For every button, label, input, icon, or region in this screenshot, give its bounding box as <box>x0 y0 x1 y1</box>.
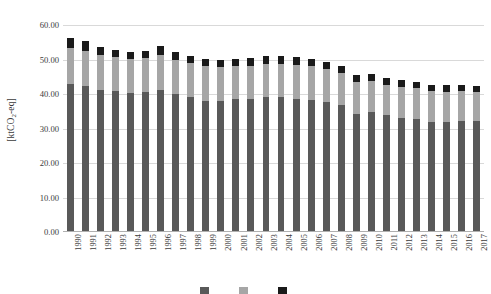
bar-segment-segment-top[interactable] <box>157 46 164 55</box>
bar-segment-segment-bottom[interactable] <box>398 118 405 232</box>
bar-segment-segment-middle[interactable] <box>217 67 224 101</box>
bar-segment-segment-middle[interactable] <box>293 65 300 98</box>
bar-segment-segment-bottom[interactable] <box>67 84 74 232</box>
bar-group[interactable] <box>82 41 89 232</box>
bar-group[interactable] <box>142 51 149 232</box>
bar-segment-segment-middle[interactable] <box>308 66 315 99</box>
bar-segment-segment-middle[interactable] <box>232 66 239 99</box>
bar-segment-segment-middle[interactable] <box>142 58 149 91</box>
bar-segment-segment-bottom[interactable] <box>428 122 435 232</box>
bar-segment-segment-bottom[interactable] <box>383 115 390 232</box>
bar-segment-segment-middle[interactable] <box>473 92 480 121</box>
bar-segment-segment-top[interactable] <box>308 59 315 67</box>
bar-group[interactable] <box>172 52 179 232</box>
bar-segment-segment-bottom[interactable] <box>323 102 330 232</box>
bar-group[interactable] <box>353 75 360 232</box>
bar-group[interactable] <box>428 85 435 232</box>
bar-segment-segment-bottom[interactable] <box>232 99 239 232</box>
bar-segment-segment-top[interactable] <box>278 56 285 64</box>
bar-group[interactable] <box>112 50 119 232</box>
bar-segment-segment-top[interactable] <box>127 52 134 59</box>
bar-group[interactable] <box>232 59 239 233</box>
legend-entry[interactable] <box>239 287 252 294</box>
bar-segment-segment-bottom[interactable] <box>338 105 345 232</box>
bar-segment-segment-bottom[interactable] <box>247 99 254 232</box>
bar-segment-segment-middle[interactable] <box>127 59 134 93</box>
bar-segment-segment-top[interactable] <box>172 52 179 60</box>
bar-group[interactable] <box>368 74 375 232</box>
bar-group[interactable] <box>338 66 345 232</box>
legend-entry[interactable] <box>200 287 213 294</box>
bar-segment-segment-bottom[interactable] <box>368 112 375 232</box>
bar-segment-segment-bottom[interactable] <box>157 90 164 232</box>
bar-segment-segment-middle[interactable] <box>398 87 405 118</box>
bar-group[interactable] <box>278 56 285 232</box>
bar-segment-segment-middle[interactable] <box>338 73 345 105</box>
bar-segment-segment-bottom[interactable] <box>263 97 270 232</box>
bar-segment-segment-middle[interactable] <box>353 82 360 114</box>
bar-segment-segment-middle[interactable] <box>323 69 330 101</box>
bar-segment-segment-bottom[interactable] <box>473 121 480 232</box>
bar-group[interactable] <box>263 56 270 232</box>
bar-segment-segment-top[interactable] <box>247 58 254 66</box>
bar-group[interactable] <box>127 52 134 232</box>
bar-segment-segment-top[interactable] <box>383 78 390 85</box>
bar-group[interactable] <box>217 60 224 232</box>
bar-segment-segment-middle[interactable] <box>97 55 104 90</box>
bar-segment-segment-top[interactable] <box>202 59 209 66</box>
bar-segment-segment-bottom[interactable] <box>127 93 134 232</box>
bar-segment-segment-bottom[interactable] <box>308 100 315 232</box>
bar-segment-segment-bottom[interactable] <box>97 90 104 232</box>
bar-group[interactable] <box>398 80 405 232</box>
bar-segment-segment-top[interactable] <box>232 59 239 67</box>
bar-group[interactable] <box>187 56 194 232</box>
bar-segment-segment-top[interactable] <box>82 41 89 50</box>
bar-segment-segment-middle[interactable] <box>413 88 420 119</box>
bar-segment-segment-top[interactable] <box>263 56 270 64</box>
bar-group[interactable] <box>157 46 164 232</box>
bar-segment-segment-bottom[interactable] <box>82 86 89 232</box>
bar-group[interactable] <box>308 59 315 232</box>
bar-segment-segment-middle[interactable] <box>82 51 89 86</box>
bar-segment-segment-bottom[interactable] <box>293 99 300 233</box>
bar-segment-segment-middle[interactable] <box>172 60 179 93</box>
bar-segment-segment-top[interactable] <box>338 66 345 73</box>
bar-segment-segment-middle[interactable] <box>428 91 435 121</box>
bar-segment-segment-bottom[interactable] <box>202 101 209 232</box>
bar-segment-segment-middle[interactable] <box>278 64 285 97</box>
bar-segment-segment-top[interactable] <box>97 47 104 55</box>
bar-segment-segment-top[interactable] <box>112 50 119 57</box>
bar-segment-segment-middle[interactable] <box>383 85 390 116</box>
bar-segment-segment-middle[interactable] <box>247 66 254 99</box>
bar-segment-segment-bottom[interactable] <box>172 94 179 232</box>
bar-group[interactable] <box>67 38 74 232</box>
bar-group[interactable] <box>97 47 104 232</box>
bar-segment-segment-bottom[interactable] <box>353 114 360 232</box>
bar-segment-segment-middle[interactable] <box>368 81 375 112</box>
bar-group[interactable] <box>383 78 390 232</box>
bar-segment-segment-top[interactable] <box>187 56 194 63</box>
bar-segment-segment-bottom[interactable] <box>217 101 224 232</box>
bar-segment-segment-top[interactable] <box>323 62 330 69</box>
bar-segment-segment-top[interactable] <box>217 60 224 67</box>
bar-segment-segment-middle[interactable] <box>202 66 209 101</box>
bar-segment-segment-bottom[interactable] <box>278 97 285 232</box>
bar-group[interactable] <box>202 59 209 232</box>
bar-segment-segment-bottom[interactable] <box>142 92 149 232</box>
bar-group[interactable] <box>323 62 330 232</box>
bar-segment-segment-middle[interactable] <box>67 48 74 84</box>
bar-segment-segment-top[interactable] <box>368 74 375 81</box>
bar-group[interactable] <box>413 82 420 232</box>
bar-segment-segment-middle[interactable] <box>112 57 119 91</box>
bar-segment-segment-middle[interactable] <box>443 92 450 122</box>
bar-segment-segment-bottom[interactable] <box>443 122 450 232</box>
bar-group[interactable] <box>293 57 300 232</box>
bar-segment-segment-middle[interactable] <box>187 63 194 97</box>
bar-segment-segment-top[interactable] <box>293 57 300 65</box>
bar-segment-segment-top[interactable] <box>67 38 74 48</box>
bar-group[interactable] <box>473 86 480 232</box>
bar-segment-segment-middle[interactable] <box>157 55 164 90</box>
bar-segment-segment-middle[interactable] <box>263 64 270 97</box>
bar-group[interactable] <box>443 85 450 232</box>
bar-group[interactable] <box>247 58 254 232</box>
